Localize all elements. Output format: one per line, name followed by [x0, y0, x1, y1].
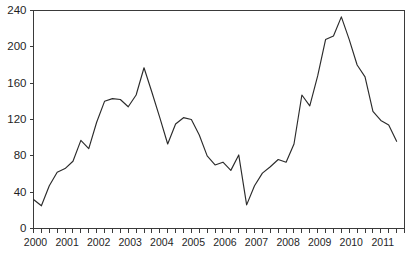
y-tick-label: 160	[7, 77, 26, 89]
x-tick-label: 2006	[213, 236, 237, 248]
y-tick-label: 0	[20, 222, 26, 234]
x-tick-label: 2003	[119, 236, 143, 248]
chart-container: 0408012016020024020002001200220032004200…	[0, 0, 415, 261]
x-tick-label: 2001	[55, 236, 79, 248]
x-tick-label: 2011	[372, 236, 395, 248]
x-tick-label: 2005	[182, 236, 206, 248]
y-tick-label: 200	[7, 40, 26, 52]
x-tick-label: 2008	[276, 236, 300, 248]
x-tick-label: 2004	[150, 236, 174, 248]
x-tick-label: 2009	[308, 236, 332, 248]
data-line-value	[34, 17, 397, 206]
x-tick-label: 2002	[87, 236, 111, 248]
y-tick-label: 80	[14, 149, 27, 161]
line-chart: 0408012016020024020002001200220032004200…	[0, 0, 415, 261]
y-tick-label: 40	[14, 186, 27, 198]
x-tick-label: 2000	[24, 236, 48, 248]
x-tick-label: 2007	[245, 236, 269, 248]
y-tick-label: 240	[7, 4, 26, 16]
y-tick-label: 120	[7, 113, 26, 125]
x-tick-label: 2010	[340, 236, 364, 248]
plot-frame	[34, 11, 405, 229]
